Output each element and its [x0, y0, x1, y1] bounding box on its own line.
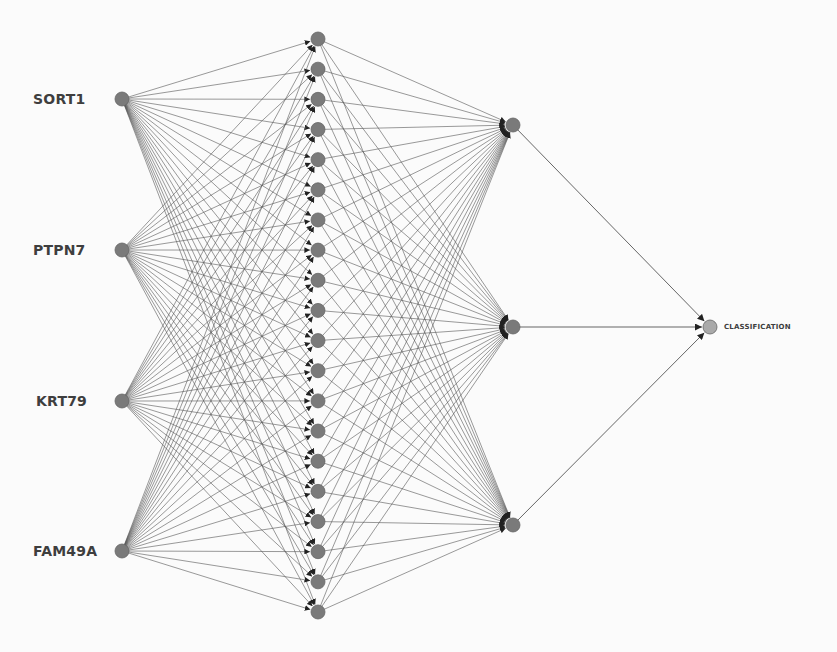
- hidden-1-node-3: [311, 122, 325, 136]
- hidden-1-node-4: [311, 153, 325, 167]
- input-label-sort1: SORT1: [33, 91, 85, 107]
- hidden-2-node-0: [506, 118, 520, 132]
- nodes-group: [115, 32, 717, 619]
- edge: [318, 461, 505, 522]
- hidden-1-node-18: [311, 575, 325, 589]
- edge: [318, 69, 505, 123]
- hidden-2-node-1: [506, 320, 520, 334]
- hidden-1-node-16: [311, 515, 325, 529]
- hidden-1-node-6: [311, 213, 325, 227]
- edge: [318, 310, 508, 519]
- edge: [318, 526, 505, 552]
- edge: [513, 333, 704, 525]
- edge: [318, 99, 505, 124]
- edge: [318, 129, 506, 220]
- hidden-1-node-1: [311, 62, 325, 76]
- edge: [318, 132, 510, 612]
- edge: [318, 132, 509, 461]
- hidden-1-node-5: [311, 183, 325, 197]
- input-label-krt79: KRT79: [36, 393, 87, 409]
- edge: [122, 137, 315, 551]
- output-label-classification: CLASSIFICATION: [724, 323, 791, 332]
- edge: [122, 401, 311, 517]
- hidden-2-node-2: [506, 518, 520, 532]
- edge: [122, 99, 310, 128]
- edge: [318, 401, 506, 521]
- hidden-1-node-10: [311, 334, 325, 348]
- input-node-1: [115, 243, 129, 257]
- edge: [318, 126, 505, 159]
- edge: [318, 132, 509, 491]
- hidden-1-node-8: [311, 273, 325, 287]
- edge: [318, 131, 507, 311]
- edge: [318, 132, 509, 431]
- hidden-1-node-12: [311, 394, 325, 408]
- hidden-1-node-19: [311, 605, 325, 619]
- edge: [122, 227, 314, 551]
- edge: [122, 41, 310, 99]
- edges-group: [122, 39, 704, 612]
- edge: [122, 250, 310, 279]
- edge: [122, 99, 311, 216]
- input-node-2: [115, 394, 129, 408]
- edge: [122, 401, 313, 606]
- edge: [122, 70, 310, 99]
- edge: [513, 125, 704, 321]
- edge: [318, 330, 506, 401]
- edge: [122, 221, 310, 250]
- network-diagram: SORT1 PTPN7 KRT79 FAM49A CLASSIFICATION: [0, 0, 837, 652]
- hidden-1-node-0: [311, 32, 325, 46]
- hidden-1-node-2: [311, 92, 325, 106]
- edge: [318, 129, 509, 517]
- edge: [318, 250, 508, 518]
- edge: [122, 99, 313, 364]
- network-graph: [0, 0, 837, 652]
- edge: [122, 372, 310, 401]
- edge: [318, 280, 508, 518]
- edge: [318, 220, 506, 323]
- edge: [318, 190, 509, 518]
- edge: [122, 523, 310, 551]
- edge: [318, 220, 509, 518]
- hidden-1-node-15: [311, 484, 325, 498]
- edge: [318, 125, 505, 129]
- edge: [122, 551, 310, 610]
- edge: [318, 527, 505, 582]
- edge: [122, 167, 314, 551]
- input-label-ptpn7: PTPN7: [33, 242, 86, 258]
- edge: [122, 401, 310, 430]
- hidden-1-node-13: [311, 424, 325, 438]
- input-node-0: [115, 92, 129, 106]
- hidden-1-node-14: [311, 454, 325, 468]
- edge: [318, 129, 506, 250]
- edge: [318, 522, 505, 525]
- input-label-fam49a: FAM49A: [33, 543, 97, 559]
- output-node-0: [703, 320, 717, 334]
- hidden-1-node-9: [311, 303, 325, 317]
- edge: [122, 435, 311, 551]
- hidden-1-node-11: [311, 364, 325, 378]
- edge: [122, 250, 313, 485]
- edge: [318, 132, 509, 521]
- hidden-1-node-17: [311, 545, 325, 559]
- hidden-1-node-7: [311, 243, 325, 257]
- edge: [318, 69, 510, 517]
- input-node-3: [115, 544, 129, 558]
- edge: [318, 371, 507, 520]
- edge: [122, 551, 310, 581]
- edge: [122, 551, 310, 552]
- edge: [318, 328, 505, 341]
